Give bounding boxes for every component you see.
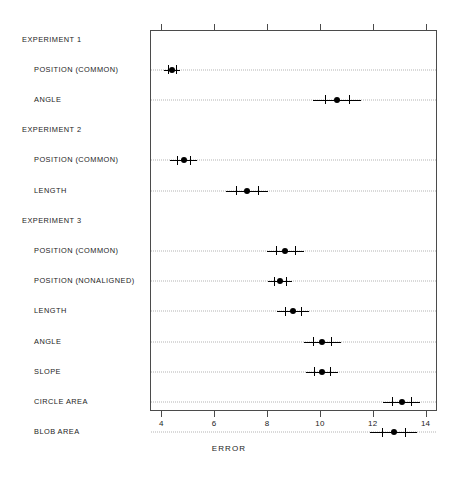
gridline bbox=[151, 281, 436, 282]
error-bar-cap bbox=[258, 186, 259, 195]
x-tick-bottom bbox=[373, 411, 374, 417]
x-tick-label: 12 bbox=[368, 419, 378, 428]
row-label: POSITION (NONALIGNED) bbox=[34, 276, 135, 285]
x-tick-bottom bbox=[214, 411, 215, 417]
error-bar-cap bbox=[314, 367, 315, 376]
row-label: POSITION (COMMON) bbox=[34, 155, 118, 164]
error-bar-cap bbox=[295, 246, 296, 255]
data-point-marker bbox=[391, 429, 397, 435]
x-tick-label: 14 bbox=[421, 419, 431, 428]
data-point-marker bbox=[277, 278, 283, 284]
x-tick-top bbox=[267, 24, 268, 30]
x-tick-label: 10 bbox=[315, 419, 325, 428]
error-bar-cap bbox=[236, 186, 237, 195]
x-tick-label: 4 bbox=[159, 419, 164, 428]
error-bar-cap bbox=[331, 337, 332, 346]
x-tick-top bbox=[373, 24, 374, 30]
error-bar-cap bbox=[176, 65, 177, 74]
gridline bbox=[151, 371, 436, 372]
data-point-marker bbox=[290, 308, 296, 314]
data-point-marker bbox=[319, 369, 325, 375]
row-label: SLOPE bbox=[34, 366, 61, 375]
x-axis-title: ERROR bbox=[0, 444, 458, 453]
x-tick-label: 8 bbox=[265, 419, 270, 428]
data-point-marker bbox=[399, 399, 405, 405]
gridline bbox=[151, 341, 436, 342]
error-bar-cap bbox=[276, 246, 277, 255]
group-label: EXPERIMENT 3 bbox=[22, 215, 81, 224]
error-bar-cap bbox=[330, 367, 331, 376]
error-bar-cap bbox=[382, 428, 383, 437]
data-point-marker bbox=[334, 97, 340, 103]
data-point-marker bbox=[181, 157, 187, 163]
data-point-marker bbox=[319, 339, 325, 345]
group-label: EXPERIMENT 2 bbox=[22, 125, 81, 134]
error-bar-cap bbox=[285, 307, 286, 316]
row-label: ANGLE bbox=[34, 94, 61, 103]
data-point-marker bbox=[282, 248, 288, 254]
error-bar-cap bbox=[405, 428, 406, 437]
x-tick-bottom bbox=[426, 411, 427, 417]
error-bar-cap bbox=[325, 95, 326, 104]
row-label: ANGLE bbox=[34, 336, 61, 345]
error-bar-cap bbox=[392, 397, 393, 406]
row-label: CIRCLE AREA bbox=[34, 396, 88, 405]
x-tick-bottom bbox=[161, 411, 162, 417]
x-tick-top bbox=[426, 24, 427, 30]
gridline bbox=[151, 99, 436, 100]
chart-root: EXPERIMENT 1POSITION (COMMON)ANGLEEXPERI… bbox=[0, 0, 458, 477]
x-tick-top bbox=[161, 24, 162, 30]
row-label: BLOB AREA bbox=[34, 427, 80, 436]
x-tick-label: 6 bbox=[212, 419, 217, 428]
error-bar-cap bbox=[274, 277, 275, 286]
plot-area bbox=[150, 30, 437, 411]
group-label: EXPERIMENT 1 bbox=[22, 34, 81, 43]
data-point-marker bbox=[244, 188, 250, 194]
data-point-marker bbox=[169, 67, 175, 73]
row-label: LENGTH bbox=[34, 306, 67, 315]
error-bar-cap bbox=[411, 397, 412, 406]
error-bar-cap bbox=[286, 277, 287, 286]
error-bar-cap bbox=[313, 337, 314, 346]
x-tick-bottom bbox=[320, 411, 321, 417]
x-tick-top bbox=[214, 24, 215, 30]
row-label: POSITION (COMMON) bbox=[34, 245, 118, 254]
row-label: POSITION (COMMON) bbox=[34, 64, 118, 73]
error-bar-cap bbox=[349, 95, 350, 104]
x-tick-bottom bbox=[267, 411, 268, 417]
error-bar-cap bbox=[301, 307, 302, 316]
x-tick-top bbox=[320, 24, 321, 30]
row-label: LENGTH bbox=[34, 185, 67, 194]
error-bar-cap bbox=[190, 156, 191, 165]
gridline bbox=[151, 69, 436, 70]
gridline bbox=[151, 190, 436, 191]
error-bar-cap bbox=[177, 156, 178, 165]
